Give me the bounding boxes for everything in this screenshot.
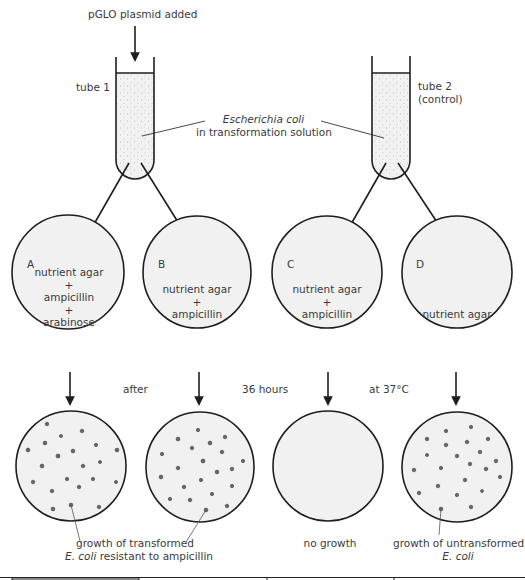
plate-b-contents: nutrient agar + ampicillin [162,283,231,321]
plate-c-content-agar: nutrient agar [292,283,361,296]
plate-letter-d: D [416,258,424,271]
transformed-growth-line2: E. coli resistant to ampicillin [65,550,205,563]
plate-a-content-agar: nutrient agar [34,266,103,279]
untransformed-growth-line1: growth of untransformed [393,537,523,550]
plate-b-content-ampicillin: ampicillin [162,308,231,321]
bottom-plates [16,411,512,522]
plate-b-content-agar: nutrient agar [162,283,231,296]
solution-organism: Escherichia coli [196,113,331,126]
plate-letter-c: C [287,258,294,271]
plate-a-content-arabinose: arabinose [34,316,103,329]
transformed-organism: E. coli [65,550,96,562]
plasmid-added-label: pGLO plasmid added [88,8,197,21]
transformed-growth-line1: growth of transformed [65,537,205,550]
plate-d-contents: nutrient agar [422,308,491,321]
plate-a-content-plus: + [34,278,103,291]
plate-b-content-plus: + [162,296,231,309]
plate-c-contents: nutrient agar + ampicillin [292,283,361,321]
tube-1-label: tube 1 [76,81,110,94]
plate-a-content-plus-2: + [34,303,103,316]
incubation-temperature: at 37°C [369,383,409,396]
plate-c-content-plus: + [292,296,361,309]
transformed-growth-label: growth of transformed E. coli resistant … [65,537,205,563]
transformed-resistance: resistant to ampicillin [96,550,213,562]
plate-c-result [273,411,383,521]
incubation-after: after [123,383,148,396]
tube-2-label-control: (control) [418,93,463,106]
plate-d-result [402,412,512,522]
solution-label: Escherichia coli in transformation solut… [196,113,331,139]
plate-b-result [146,412,254,522]
incubation-duration: 36 hours [242,383,288,396]
plate-a-contents: nutrient agar + ampicillin + arabinose [34,266,103,329]
plate-c-content-ampicillin: ampicillin [292,308,361,321]
plate-a-content-ampicillin: ampicillin [34,291,103,304]
plate-d-content-agar: nutrient agar [422,308,491,321]
tube-2 [372,56,410,179]
tube-2-label-name: tube 2 [418,80,463,93]
tube-2-label: tube 2 (control) [418,80,463,106]
solution-medium: in transformation solution [196,126,331,139]
plate-letter-a: A [27,258,34,271]
untransformed-growth-label: growth of untransformed E. coli [393,537,523,563]
untransformed-organism: E. coli [393,550,523,563]
tube-1 [116,57,154,179]
plate-letter-b: B [158,258,165,271]
no-growth-label: no growth [290,537,370,550]
